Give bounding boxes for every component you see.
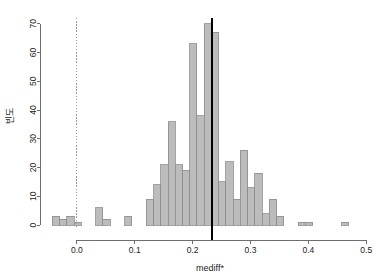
histogram-bar xyxy=(74,222,81,225)
x-axis-tick-label: 0.3 xyxy=(245,245,257,255)
histogram-bar xyxy=(103,219,110,225)
histogram-bar xyxy=(154,185,161,225)
y-axis-tick-label: 50 xyxy=(28,76,38,86)
histogram-bar xyxy=(255,173,262,225)
x-axis-tick-label: 0.1 xyxy=(129,245,141,255)
y-axis-tick-label: 0 xyxy=(28,222,38,227)
y-axis-tick-label: 60 xyxy=(28,48,38,58)
x-axis-tick-label: 0.2 xyxy=(187,245,199,255)
x-axis-tick-label: 0.0 xyxy=(71,245,83,255)
y-axis-tick-label: 30 xyxy=(28,134,38,144)
histogram-bar xyxy=(342,222,349,225)
x-axis-tick-label: 0.5 xyxy=(360,245,372,255)
histogram-bar xyxy=(175,165,182,225)
histogram-bar xyxy=(305,222,312,225)
histogram-plot-panel: 010203040506070 0.00.10.20.30.40.5 medif… xyxy=(0,0,383,279)
histogram-bar xyxy=(190,44,197,225)
histogram-bar xyxy=(277,216,284,225)
histogram-bar xyxy=(52,216,59,225)
x-axis-title: mediff* xyxy=(196,263,224,273)
x-axis-tick-label: 0.4 xyxy=(302,245,314,255)
histogram-bar xyxy=(183,170,190,225)
y-axis-tick-label: 10 xyxy=(28,191,38,201)
histogram-bar xyxy=(96,208,103,225)
histogram-bar xyxy=(219,182,226,225)
y-axis: 010203040506070 xyxy=(28,19,40,228)
histogram-bar xyxy=(67,216,74,225)
histogram-bar xyxy=(161,165,168,225)
histogram-bar xyxy=(226,162,233,225)
x-axis: 0.00.10.20.30.40.5 xyxy=(71,240,372,255)
histogram-bar xyxy=(262,214,269,226)
histogram-bar xyxy=(204,24,211,225)
histogram-bar xyxy=(248,188,255,225)
histogram-bar xyxy=(168,122,175,226)
histogram-bar xyxy=(60,219,67,225)
histogram-bar xyxy=(298,222,305,225)
y-axis-tick-label: 70 xyxy=(28,19,38,29)
histogram-bar xyxy=(125,216,132,225)
y-axis-title: 빈도 xyxy=(5,108,15,124)
histogram-bar xyxy=(233,199,240,225)
histogram-bar xyxy=(240,150,247,225)
histogram-chart: 010203040506070 0.00.10.20.30.40.5 medif… xyxy=(0,0,383,279)
histogram-bar xyxy=(197,116,204,225)
histogram-bar xyxy=(146,199,153,225)
histogram-bars xyxy=(52,24,349,225)
y-axis-tick-label: 20 xyxy=(28,163,38,173)
y-axis-tick-label: 40 xyxy=(28,105,38,115)
histogram-bar xyxy=(269,199,276,225)
